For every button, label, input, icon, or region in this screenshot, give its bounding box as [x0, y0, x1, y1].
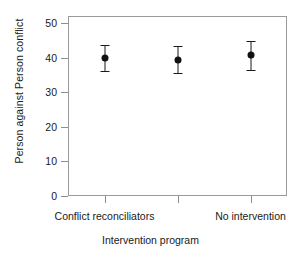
y-axis-tick-mark — [61, 127, 68, 128]
y-axis-tick-labels: 01020304050 — [33, 0, 57, 255]
x-axis-tick-label: No intervention — [215, 210, 286, 222]
y-axis-tick-label: 40 — [33, 53, 57, 63]
x-axis-tick-mark — [105, 196, 106, 203]
plot-area — [68, 16, 287, 196]
y-axis-tick-label: 30 — [33, 87, 57, 97]
x-axis-tick-mark — [251, 196, 252, 203]
x-axis-tick-mark — [178, 196, 179, 203]
x-axis-tick-label: Conflict reconciliators — [55, 210, 155, 222]
y-axis-tick-mark — [61, 92, 68, 93]
y-axis-tick-mark — [61, 58, 68, 59]
y-axis-title: Person against Person conflict — [10, 0, 28, 186]
x-axis-title: Intervention program — [0, 234, 301, 246]
y-axis-tick-mark — [61, 196, 68, 197]
y-axis-tick-label: 10 — [33, 156, 57, 166]
y-axis-tick-label: 0 — [33, 191, 57, 201]
y-axis-tick-label: 20 — [33, 122, 57, 132]
y-axis-tick-label: 50 — [33, 18, 57, 28]
chart-figure: Person against Person conflict 010203040… — [0, 0, 301, 255]
y-axis-tick-mark — [61, 161, 68, 162]
y-axis-tick-mark — [61, 23, 68, 24]
